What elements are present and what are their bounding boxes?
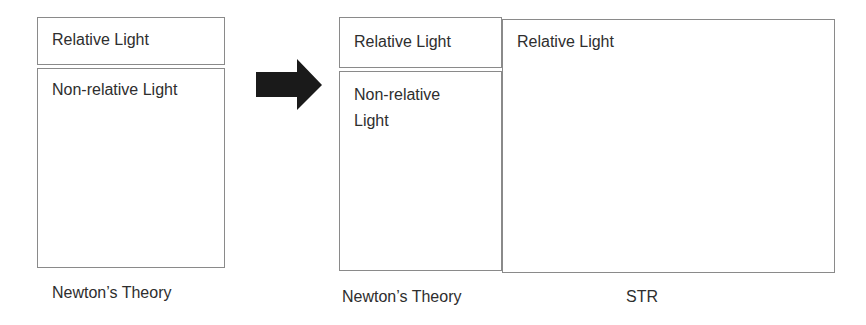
left-caption: Newton’s Theory [52,283,171,303]
right-arrow-icon [254,58,324,112]
left-relative-light-box: Relative Light [37,17,225,65]
right-newton-non-relative-light-box: Non-relative Light [339,71,502,271]
right-newton-relative-light-label: Relative Light [354,29,451,55]
str-caption: STR [626,287,658,307]
left-relative-light-label: Relative Light [52,27,149,53]
right-newton-non-relative-light-label: Non-relative Light [354,82,474,134]
str-relative-light-box: Relative Light [502,19,835,273]
right-newton-caption: Newton’s Theory [342,287,461,307]
left-non-relative-light-box: Non-relative Light [37,68,225,268]
str-relative-light-label: Relative Light [517,29,614,55]
right-newton-relative-light-box: Relative Light [339,17,502,68]
left-non-relative-light-label: Non-relative Light [52,77,177,103]
